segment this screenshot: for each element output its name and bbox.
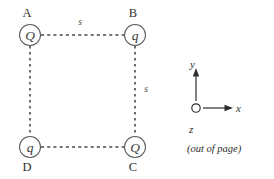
charge-symbol-c: Q xyxy=(130,140,140,155)
corner-label-d: D xyxy=(22,160,31,174)
z-axis-label: z xyxy=(188,123,194,135)
charge-node-a: Q A xyxy=(20,6,41,46)
figure-root: Q A q B Q C q D s s xyxy=(0,0,274,179)
square-edges xyxy=(30,35,135,147)
corner-label-b: B xyxy=(129,6,137,20)
corner-label-a: A xyxy=(22,6,31,20)
side-label-right: s xyxy=(144,84,148,94)
charge-square-diagram: Q A q B Q C q D s s xyxy=(0,0,274,179)
charge-symbol-a: Q xyxy=(25,28,35,43)
y-axis-label: y xyxy=(189,58,195,70)
charge-node-d: q D xyxy=(20,137,41,175)
corner-label-c: C xyxy=(129,160,137,174)
z-axis-note: (out of page) xyxy=(187,143,242,155)
coordinate-axes: y x z (out of page) xyxy=(187,58,242,155)
charge-symbol-b: q xyxy=(132,28,139,43)
origin-circle xyxy=(192,104,200,112)
x-axis-arrowhead xyxy=(225,105,234,111)
side-label-top: s xyxy=(78,17,82,27)
charge-symbol-d: q xyxy=(27,140,34,155)
charge-node-c: Q C xyxy=(125,137,146,175)
charge-node-b: q B xyxy=(125,6,146,46)
x-axis-label: x xyxy=(235,102,241,114)
